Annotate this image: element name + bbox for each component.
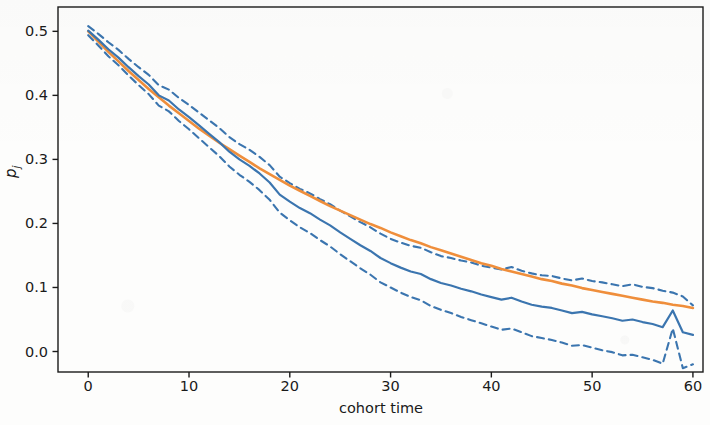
- y-tick-label: 0.1: [0, 279, 48, 295]
- y-tick-label: 0.4: [0, 87, 48, 103]
- x-tick-label: 20: [281, 378, 299, 394]
- series-line: [88, 31, 693, 308]
- y-tick-label: 0.0: [0, 344, 48, 360]
- y-tick-label: 0.5: [0, 23, 48, 39]
- x-tick-label: 10: [180, 378, 198, 394]
- series-empirical-estimate: [88, 31, 693, 335]
- y-axis-ticks: [53, 31, 59, 351]
- series-line: [88, 31, 693, 335]
- x-axis-ticks: [88, 372, 693, 378]
- x-tick-label: 30: [381, 378, 399, 394]
- x-tick-label: 50: [583, 378, 601, 394]
- x-tick-label: 0: [84, 378, 93, 394]
- x-tick-label: 60: [684, 378, 702, 394]
- series-lower-confidence-band: [88, 35, 693, 368]
- x-axis-label: cohort time: [0, 400, 710, 416]
- series-line: [88, 35, 693, 368]
- y-tick-label: 0.2: [0, 215, 48, 231]
- x-tick-label: 40: [482, 378, 500, 394]
- y-axis-label-symbol: p: [2, 168, 20, 178]
- series-fitted-model: [88, 31, 693, 308]
- figure-canvas: cohort time pj 0102030405060 0.00.10.20.…: [0, 0, 710, 425]
- chart-plot-area: [0, 0, 710, 425]
- y-tick-label: 0.3: [0, 151, 48, 167]
